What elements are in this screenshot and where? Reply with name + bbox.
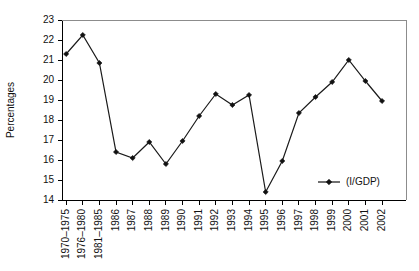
data-point-marker — [113, 149, 118, 154]
x-tick-label: 2000 — [342, 209, 353, 232]
x-tick-label: 2001 — [359, 209, 370, 232]
plot-area — [64, 32, 385, 194]
x-tick-label: 1998 — [309, 209, 320, 232]
x-tick-label: 1970–1975 — [60, 209, 71, 259]
y-tick-label: 18 — [43, 114, 55, 125]
x-tick-label: 1986 — [110, 209, 121, 232]
data-point-marker — [263, 189, 268, 194]
x-tick-label: 1990 — [176, 209, 187, 232]
x-tick-label: 1988 — [143, 209, 154, 232]
x-tick-label: 1994 — [243, 209, 254, 232]
y-tick-label: 15 — [43, 174, 55, 185]
legend-entry-label: (I/GDP) — [346, 176, 380, 187]
x-tick-label: 1997 — [293, 209, 304, 232]
x-tick-label: 1996 — [276, 209, 287, 232]
data-point-marker — [280, 158, 285, 163]
y-tick-label: 20 — [43, 74, 55, 85]
x-tick-label: 1987 — [126, 209, 137, 232]
legend-marker-icon — [326, 179, 332, 185]
y-tick-label: 16 — [43, 154, 55, 165]
y-tick-label: 21 — [43, 54, 55, 65]
x-tick-label: 1989 — [160, 209, 171, 232]
y-tick-label: 19 — [43, 94, 55, 105]
series-line-igdp — [66, 35, 382, 192]
x-axis: 1970–19751976–19801981–19851986198719881… — [60, 200, 406, 259]
x-tick-label: 2002 — [376, 209, 387, 232]
y-tick-label: 17 — [43, 134, 55, 145]
x-tick-label: 1981–1985 — [93, 209, 104, 259]
x-tick-label: 1992 — [209, 209, 220, 232]
x-tick-label: 1993 — [226, 209, 237, 232]
chart-legend: (I/GDP) — [318, 176, 380, 187]
data-point-marker — [246, 92, 251, 97]
y-tick-label: 22 — [43, 34, 55, 45]
x-tick-label: 1976–1980 — [76, 209, 87, 259]
x-tick-label: 1991 — [193, 209, 204, 232]
y-tick-label: 14 — [43, 194, 55, 205]
y-axis-title: Percentages — [5, 82, 16, 138]
data-point-marker — [97, 60, 102, 65]
y-tick-label: 23 — [43, 14, 55, 25]
x-tick-label: 1995 — [259, 209, 270, 232]
line-chart: 14151617181920212223 1970–19751976–19801… — [0, 0, 419, 271]
x-tick-label: 1999 — [326, 209, 337, 232]
chart-container: 14151617181920212223 1970–19751976–19801… — [0, 0, 419, 271]
